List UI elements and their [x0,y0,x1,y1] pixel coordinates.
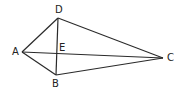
label-a: A [12,47,19,57]
kite-diagram [0,0,186,91]
segment-cb [56,58,163,75]
label-d: D [55,5,63,15]
diagonal-ac [22,52,163,58]
label-e: E [59,43,65,53]
segment-ad [22,18,58,52]
diagonal-db [56,18,58,75]
segment-ba [22,52,56,75]
segment-dc [58,18,163,58]
label-b: B [52,79,59,89]
label-c: C [167,53,174,63]
